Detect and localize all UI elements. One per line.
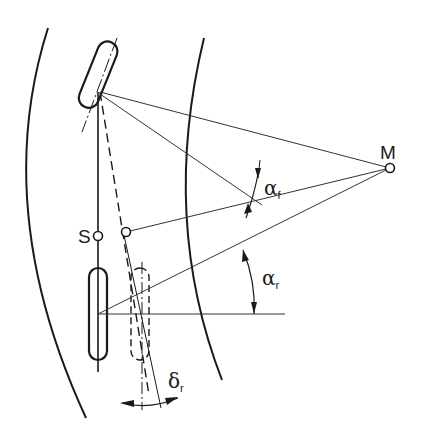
vehicle-cornering-diagram: M S αf αr δr: [0, 0, 445, 432]
point-m: [386, 164, 395, 173]
ray-front-lower: [100, 94, 262, 205]
label-m: M: [380, 142, 396, 163]
front-wheel-axis: [82, 38, 117, 132]
point-s: [94, 232, 103, 241]
delta-r-arrow-right: [165, 397, 178, 405]
label-alpha-f: αf: [264, 176, 282, 201]
alpha-r-arrow-top: [242, 250, 249, 262]
label-s: S: [78, 226, 91, 247]
label-alpha-r: αr: [262, 266, 280, 291]
outer-road-arc: [26, 28, 86, 418]
label-delta-r: δr: [168, 369, 184, 394]
alpha-r-arrow-bottom: [251, 302, 257, 314]
point-displaced: [122, 228, 131, 237]
inner-road-arc: [186, 38, 222, 380]
delta-r-arrow-left: [120, 400, 134, 407]
ray-rear: [98, 168, 390, 314]
alpha-f-arrow-top: [255, 168, 261, 179]
ray-front-upper: [100, 92, 390, 168]
